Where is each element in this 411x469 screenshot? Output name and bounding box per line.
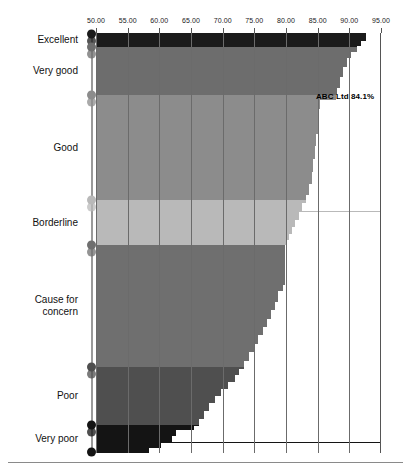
footer-divider	[8, 462, 403, 463]
x-tick-label: 65.00	[182, 17, 200, 24]
staircase-step	[285, 277, 381, 285]
gridline	[223, 33, 224, 453]
staircase-step	[312, 172, 381, 185]
staircase-step	[209, 403, 381, 411]
staircase-step	[267, 319, 381, 327]
x-tick-label: 50.00	[87, 17, 105, 24]
staircase-step	[199, 419, 381, 426]
gridline	[191, 33, 192, 453]
band-boundary-marker	[87, 98, 96, 107]
staircase-step	[285, 245, 381, 256]
annotation-abc-ltd: ABC Ltd 84.1%	[316, 92, 374, 101]
x-tick-label: 95.00	[372, 17, 390, 24]
category-label-poor: Poor	[57, 390, 78, 402]
x-tick-label: 55.00	[119, 17, 137, 24]
staircase-step	[263, 327, 381, 335]
x-tick-label: 80.00	[277, 17, 295, 24]
staircase-step	[221, 389, 381, 396]
staircase-step	[275, 302, 381, 310]
category-label-excellent: Excellent	[37, 34, 78, 46]
staircase-step	[249, 352, 381, 360]
band-boundary-marker	[87, 428, 96, 437]
staircase-step	[258, 335, 381, 343]
staircase-step	[295, 220, 381, 227]
x-tick-label: 70.00	[214, 17, 232, 24]
staircase-step	[271, 310, 381, 318]
staircase-step	[347, 58, 381, 66]
category-label-very-poor: Very poor	[35, 433, 78, 445]
staircase-step	[292, 227, 381, 234]
y-axis-category-labels: ExcellentVery goodGoodBorderlineCause fo…	[0, 0, 78, 469]
category-label-cause-for-concern: Cause for concern	[35, 294, 78, 318]
gridline	[96, 33, 97, 453]
x-tick-label: 90.00	[340, 17, 358, 24]
x-tick-label: 75.00	[245, 17, 263, 24]
staircase-step	[244, 361, 381, 369]
staircase-step	[302, 203, 381, 211]
staircase-step	[285, 256, 381, 269]
band-boundary-marker	[87, 448, 96, 457]
staircase-step	[313, 159, 381, 172]
category-label-good: Good	[54, 142, 78, 154]
band-boundary-marker	[87, 370, 96, 379]
staircase-step	[278, 291, 381, 302]
gridline	[380, 33, 381, 453]
gridline	[286, 33, 287, 453]
staircase-step	[299, 212, 381, 220]
band-boundary-marker	[87, 248, 96, 257]
category-label-borderline: Borderline	[32, 217, 78, 229]
staircase-step	[228, 382, 381, 390]
x-tick-mark	[381, 28, 382, 33]
chart-canvas: 50.0055.0060.0065.0070.0075.0080.0085.00…	[0, 0, 411, 469]
staircase-step	[285, 268, 381, 276]
band-boundary-marker	[87, 203, 96, 212]
staircase-step	[315, 146, 381, 159]
gridline	[254, 33, 255, 453]
x-tick-label: 60.00	[150, 17, 168, 24]
staircase-step	[320, 100, 381, 108]
band-boundary-marker	[87, 50, 96, 59]
staircase-step	[204, 411, 381, 419]
gridline	[159, 33, 160, 453]
category-label-very-good: Very good	[33, 65, 78, 77]
gridline	[128, 33, 129, 453]
staircase-step	[215, 396, 381, 403]
staircase-step	[309, 184, 381, 195]
staircase-step	[340, 77, 381, 88]
x-tick-label: 85.00	[309, 17, 327, 24]
